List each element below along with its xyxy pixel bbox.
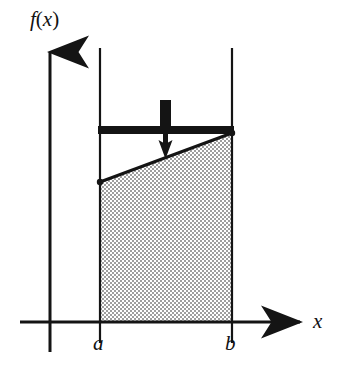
shaded-area-under-curve: [100, 133, 232, 322]
tick-label-b: b: [225, 333, 236, 354]
y-axis-label-paren-close: ): [52, 7, 59, 31]
tick-label-a: a: [93, 333, 104, 354]
figure-canvas: [0, 0, 344, 375]
riemann-area-figure: f(x) x a b: [0, 0, 344, 375]
function-point-b: [229, 130, 235, 136]
y-axis-label-var: x: [43, 7, 52, 31]
down-arrow-stem-upper: [160, 100, 171, 128]
function-point-a: [97, 179, 103, 185]
y-axis-label: f(x): [30, 9, 59, 30]
y-axis-label-paren-open: (: [36, 7, 43, 31]
x-axis-label: x: [313, 311, 322, 332]
